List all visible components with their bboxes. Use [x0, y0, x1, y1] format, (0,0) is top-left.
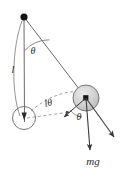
string-displaced	[24, 17, 86, 98]
pivot-point	[20, 13, 27, 20]
label-length: l	[12, 64, 15, 75]
equilibrium-bob-arrowhead	[22, 113, 27, 121]
label-weight-mg: mg	[86, 155, 100, 167]
dashed-horizontal-reference	[27, 112, 70, 118]
label-angle-ball: θ	[77, 111, 82, 122]
vector-radial	[86, 98, 114, 137]
pendulum-figure: θ l lθ θ mg	[0, 0, 125, 178]
arc-displacement-dashed	[31, 92, 80, 111]
length-bracket-arc	[14, 21, 22, 116]
label-angle-pivot: θ	[31, 45, 36, 56]
pendulum-diagram-svg: θ l lθ θ mg	[0, 0, 125, 178]
label-arc-displacement: lθ	[43, 96, 53, 108]
